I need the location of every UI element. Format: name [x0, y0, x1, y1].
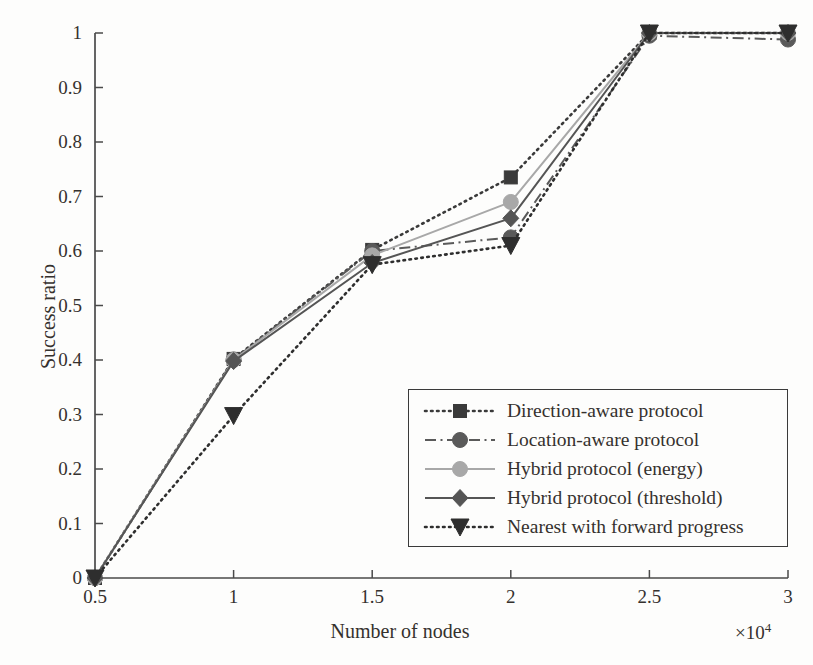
legend-label: Location-aware protocol [507, 430, 699, 450]
y-tick-label: 0.8 [20, 131, 82, 153]
legend-sample-2 [421, 456, 499, 482]
y-tick-label: 0.1 [20, 513, 82, 535]
legend-sample-1 [421, 427, 499, 453]
legend-item-3: Hybrid protocol (threshold) [409, 483, 787, 512]
legend-item-4: Nearest with forward progress [409, 512, 787, 541]
legend-sample-0 [421, 398, 499, 424]
y-tick-label: 0.2 [20, 458, 82, 480]
legend-item-2: Hybrid protocol (energy) [409, 454, 787, 483]
plot-canvas [0, 0, 813, 665]
x-tick-label: 3 [783, 586, 793, 608]
x-tick-label: 0.5 [83, 586, 107, 608]
legend-label: Hybrid protocol (threshold) [507, 488, 723, 508]
x-tick-label: 1.5 [360, 586, 384, 608]
legend-item-0: Direction-aware protocol [409, 396, 787, 425]
x-tick-label: 2.5 [638, 586, 662, 608]
legend-label: Hybrid protocol (energy) [507, 459, 703, 479]
legend-sample-3 [421, 485, 499, 511]
chart-legend: Direction-aware protocolLocation-aware p… [408, 389, 788, 547]
legend-item-1: Location-aware protocol [409, 425, 787, 454]
x-axis-label: Number of nodes [250, 620, 550, 643]
data-point-marker [503, 194, 518, 209]
data-point-marker [454, 404, 467, 417]
y-tick-label: 0.9 [20, 77, 82, 99]
legend-label: Direction-aware protocol [507, 401, 704, 421]
legend-label: Nearest with forward progress [507, 517, 744, 537]
chart-figure: 00.10.20.30.40.50.60.70.80.91 0.511.522.… [0, 0, 813, 665]
x-axis-multiplier: ×104 [735, 620, 771, 644]
data-point-marker [453, 432, 468, 447]
x-multiplier-exponent: 4 [765, 620, 772, 635]
data-point-marker [453, 461, 468, 476]
x-multiplier-base: ×10 [735, 622, 765, 643]
legend-sample-4 [421, 514, 499, 540]
y-tick-label: 0 [20, 567, 82, 589]
data-point-marker [452, 489, 468, 506]
data-point-marker [504, 171, 517, 184]
y-tick-label: 1 [20, 22, 82, 44]
x-tick-label: 1 [229, 586, 239, 608]
y-axis-label: Success ratio [37, 217, 60, 417]
y-tick-label: 0.7 [20, 186, 82, 208]
x-tick-label: 2 [506, 586, 516, 608]
